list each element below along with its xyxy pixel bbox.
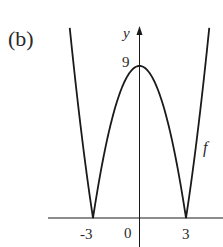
panel-label: (b) [8, 28, 34, 50]
x-tick-3: 3 [182, 227, 190, 242]
y-axis-label: y [123, 26, 130, 41]
function-label: f [203, 140, 207, 156]
y-axis-arrow-icon [137, 26, 143, 35]
y-tick-9: 9 [122, 55, 130, 70]
x-tick-neg3: -3 [80, 227, 93, 242]
x-tick-0: 0 [124, 226, 132, 241]
